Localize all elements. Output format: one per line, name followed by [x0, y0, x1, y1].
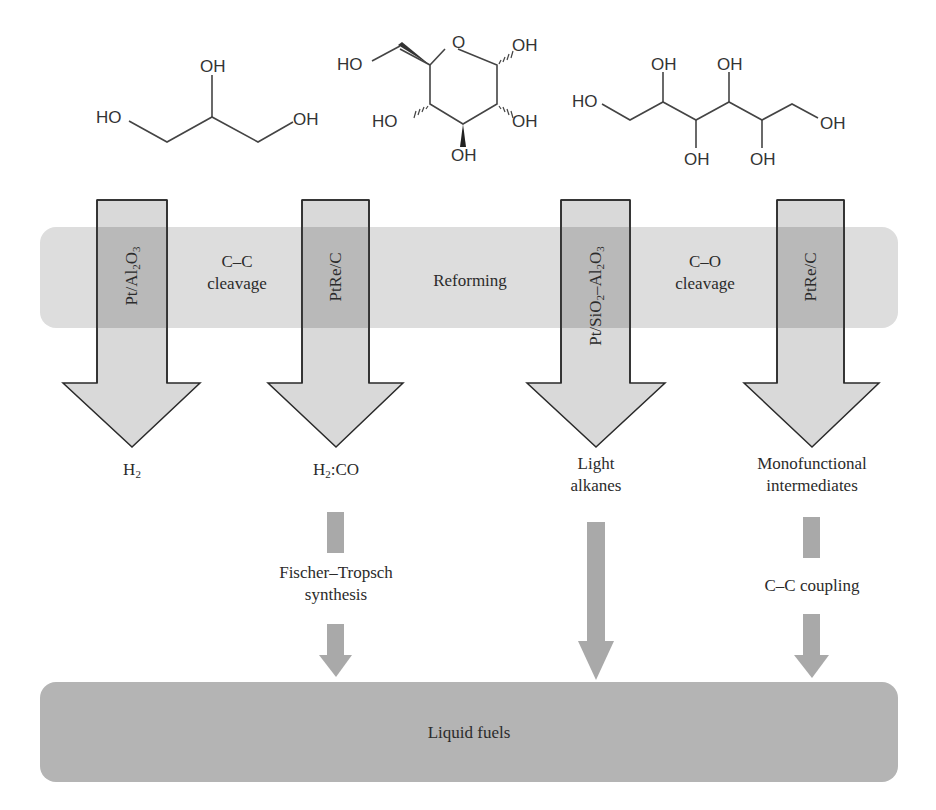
glucose-label-oh-right: OH	[512, 112, 538, 132]
co-cleavage-label: C–O cleavage	[645, 251, 765, 295]
sorbitol-label-oh-2: OH	[717, 55, 743, 75]
glycerol-label-ho-left: HO	[96, 108, 122, 128]
sorbitol-label-oh-1: OH	[651, 55, 677, 75]
product-light-alkanes: Light alkanes	[546, 453, 646, 497]
product-h2: H2	[92, 459, 172, 481]
glucose-label-oh-bottom: OH	[451, 146, 477, 166]
catalyst-pt-al2o3: Pt/Al2O3	[121, 216, 143, 336]
cc-cleavage-label: C–C cleavage	[182, 251, 292, 295]
catalyst-pt-sio2-al2o3: Pt/SiO2–Al2O3	[585, 206, 607, 386]
sorbitol-structure	[602, 72, 818, 148]
glycerol-label-oh-top: OH	[200, 57, 226, 77]
sorbitol-label-oh-right: OH	[820, 114, 846, 134]
liquid-fuels-label: Liquid fuels	[369, 722, 569, 744]
catalyst-ptre-c-2: PtRe/C	[800, 227, 822, 327]
sorbitol-label-oh-4: OH	[750, 150, 776, 170]
glucose-label-ho-ch2: HO	[337, 55, 363, 75]
glucose-label-ring-o: O	[452, 33, 465, 53]
reforming-label: Reforming	[400, 270, 540, 292]
arrow-cc-coupling	[794, 517, 829, 678]
catalyst-ptre-c-1: PtRe/C	[325, 227, 347, 327]
cc-coupling-label: C–C coupling	[742, 575, 882, 597]
glycerol-structure	[129, 75, 293, 142]
glycerol-label-oh-right: OH	[293, 110, 319, 130]
glucose-label-oh-anomeric: OH	[512, 36, 538, 56]
sorbitol-label-ho-left: HO	[572, 92, 598, 112]
arrow-light-alkanes	[578, 522, 614, 680]
product-h2-co: H2:CO	[286, 459, 386, 481]
sorbitol-label-oh-3: OH	[684, 150, 710, 170]
glucose-label-ho-left: HO	[372, 112, 398, 132]
fischer-tropsch-label: Fischer–Tropsch synthesis	[256, 562, 416, 606]
product-monofunctional-intermediates: Monofunctional intermediates	[737, 453, 887, 497]
